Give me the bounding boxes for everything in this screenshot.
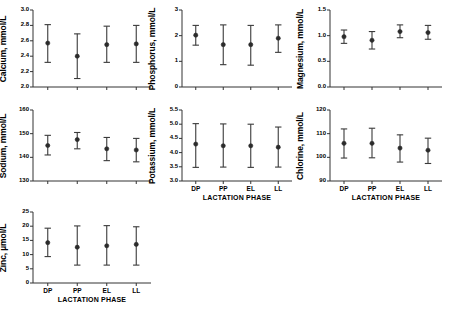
ytick-label-zinc-5: 25: [9, 208, 29, 214]
ytick-label-zinc-2: 10: [9, 251, 29, 257]
data-marker-zinc-dp: [46, 241, 50, 245]
data-marker-zinc-pp: [75, 245, 79, 249]
errorbar-zinc-pp: [74, 226, 80, 265]
axes-zinc: [33, 212, 151, 283]
xtick-label-zinc-dp: DP: [36, 287, 60, 294]
errorbar-zinc-el: [104, 226, 110, 265]
panel-zinc: 0510152025Zinc, µmol/LDPPPELLLLACTATION …: [0, 0, 456, 314]
ylabel-zinc: Zinc, µmol/L: [0, 223, 8, 272]
xlabel-zinc: LACTATION PHASE: [33, 296, 151, 303]
errorbar-zinc-dp: [45, 228, 51, 256]
errorbar-zinc-ll: [133, 227, 139, 265]
ytick-label-zinc-3: 15: [9, 236, 29, 242]
plot-area-zinc: [0, 0, 456, 314]
xtick-label-zinc-pp: PP: [65, 287, 89, 294]
ytick-label-zinc-4: 20: [9, 222, 29, 228]
xtick-label-zinc-el: EL: [95, 287, 119, 294]
xtick-label-zinc-ll: LL: [124, 287, 148, 294]
multi-panel-errorbar-figure: 2.02.22.42.62.83.0Calcium, mmol/L0123Pho…: [0, 0, 456, 314]
data-marker-zinc-ll: [134, 242, 138, 246]
data-marker-zinc-el: [105, 244, 109, 248]
ytick-label-zinc-1: 5: [9, 265, 29, 271]
ytick-label-zinc-0: 0: [9, 279, 29, 285]
